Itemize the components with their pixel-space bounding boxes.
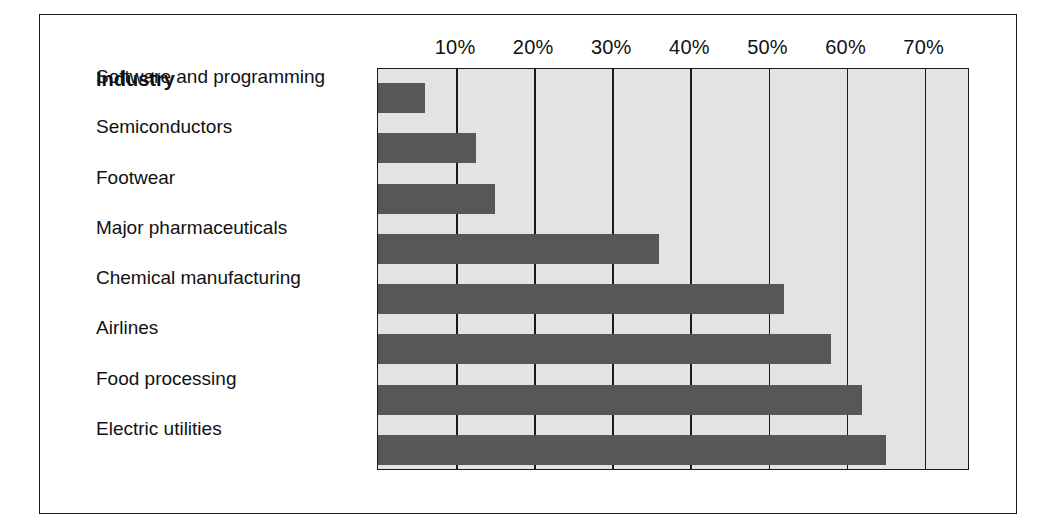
bar [378, 83, 425, 113]
category-label: Electric utilities [96, 418, 222, 440]
category-label: Chemical manufacturing [96, 267, 301, 289]
x-tick-label-70: 70% [884, 36, 964, 59]
x-tick-label-30: 30% [571, 36, 651, 59]
x-tick-label-50: 50% [728, 36, 808, 59]
bar [378, 184, 495, 214]
category-label: Software and programming [96, 66, 325, 88]
x-tick-label-10: 10% [415, 36, 495, 59]
bar [378, 435, 886, 465]
category-label: Major pharmaceuticals [96, 217, 287, 239]
bar [378, 234, 659, 264]
category-label-column: Industry Software and programmingSemicon… [96, 60, 376, 470]
x-tick-label-40: 40% [649, 36, 729, 59]
bar [378, 284, 784, 314]
x-tick-label-20: 20% [493, 36, 573, 59]
category-label: Food processing [96, 368, 236, 390]
x-tick-label-60: 60% [806, 36, 886, 59]
bar [378, 133, 476, 163]
gridline-70 [925, 69, 927, 469]
plot-area [377, 68, 969, 470]
category-label: Airlines [96, 317, 158, 339]
category-label: Semiconductors [96, 116, 232, 138]
bar [378, 385, 862, 415]
chart-figure: 10%20%30%40%50%60%70% Industry Software … [0, 0, 1058, 530]
bar [378, 334, 831, 364]
category-label: Footwear [96, 167, 175, 189]
